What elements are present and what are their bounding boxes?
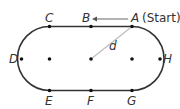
track-points — [20, 25, 162, 93]
point-a — [130, 25, 134, 29]
label-d-distance: d — [109, 40, 117, 52]
point-h — [158, 57, 162, 61]
label-start: (Start) — [142, 12, 180, 24]
label-f: F — [87, 95, 94, 107]
label-g: G — [127, 95, 136, 107]
label-a: A — [131, 12, 139, 24]
point-f — [89, 89, 93, 93]
center-right — [130, 57, 134, 61]
point-b — [89, 25, 93, 29]
label-b: B — [82, 12, 90, 24]
label-c: C — [45, 12, 53, 24]
center-middle — [89, 57, 93, 61]
point-d — [20, 57, 24, 61]
label-d: D — [9, 53, 18, 65]
point-g — [130, 89, 134, 93]
arrow-head-icon — [92, 17, 97, 22]
label-h: H — [163, 53, 172, 65]
label-e: E — [45, 95, 53, 107]
center-left — [48, 57, 52, 61]
point-c — [48, 25, 52, 29]
point-e — [48, 89, 52, 93]
